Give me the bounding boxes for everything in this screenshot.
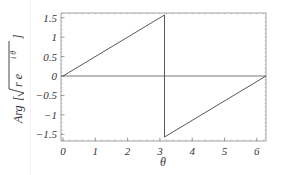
x-axis-label: θ <box>160 155 166 169</box>
y-axis-label-prefix: Arg <box>11 105 25 124</box>
x-tick-label: 0 <box>60 145 66 157</box>
y-tick-label: 0.5 <box>43 51 57 63</box>
y-tick-label: −1 <box>44 109 57 121</box>
y-axis-label: Arg [ r e i θ ] <box>9 34 25 124</box>
x-tick-label: 5 <box>222 145 228 157</box>
y-axis-label-body: r e <box>11 73 25 87</box>
x-tick-label: 2 <box>125 145 131 157</box>
plot-border <box>61 13 266 141</box>
y-axis-label-exponent: i θ <box>9 51 18 59</box>
y-axis-label-bracket-close: ] <box>11 34 25 40</box>
x-tick-label: 1 <box>93 145 99 157</box>
y-tick-label: −1.5 <box>36 128 58 140</box>
plot-frame <box>61 13 266 141</box>
y-axis-ticks: −1.5−1−0.500.511.5 <box>36 12 65 141</box>
chart: 0123456 −1.5−1−0.500.511.5 θ Arg [ r e i… <box>0 0 291 175</box>
y-tick-label: 0 <box>52 70 58 82</box>
data-series <box>61 15 266 137</box>
x-tick-label: 6 <box>254 145 260 157</box>
y-tick-label: 1 <box>52 31 58 43</box>
y-tick-label: 1.5 <box>43 12 57 24</box>
x-tick-label: 4 <box>189 145 195 157</box>
y-tick-label: −0.5 <box>36 89 58 101</box>
